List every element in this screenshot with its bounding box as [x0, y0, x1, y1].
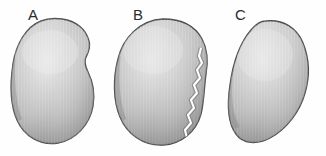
specimen-c-image [213, 0, 326, 156]
specimen-a-image [0, 0, 112, 156]
specimen-b-image [107, 0, 219, 156]
specimen-c-body [213, 0, 326, 156]
specimen-a-specular-highlight [22, 30, 78, 74]
specimen-b-body [107, 0, 219, 156]
panel-a: A [0, 0, 112, 156]
specimen-a-bottom-shading [0, 0, 112, 156]
figure-root: A [0, 0, 326, 156]
panel-b: B [107, 0, 219, 156]
specimen-a-body [0, 0, 112, 156]
panel-c: C [213, 0, 326, 156]
